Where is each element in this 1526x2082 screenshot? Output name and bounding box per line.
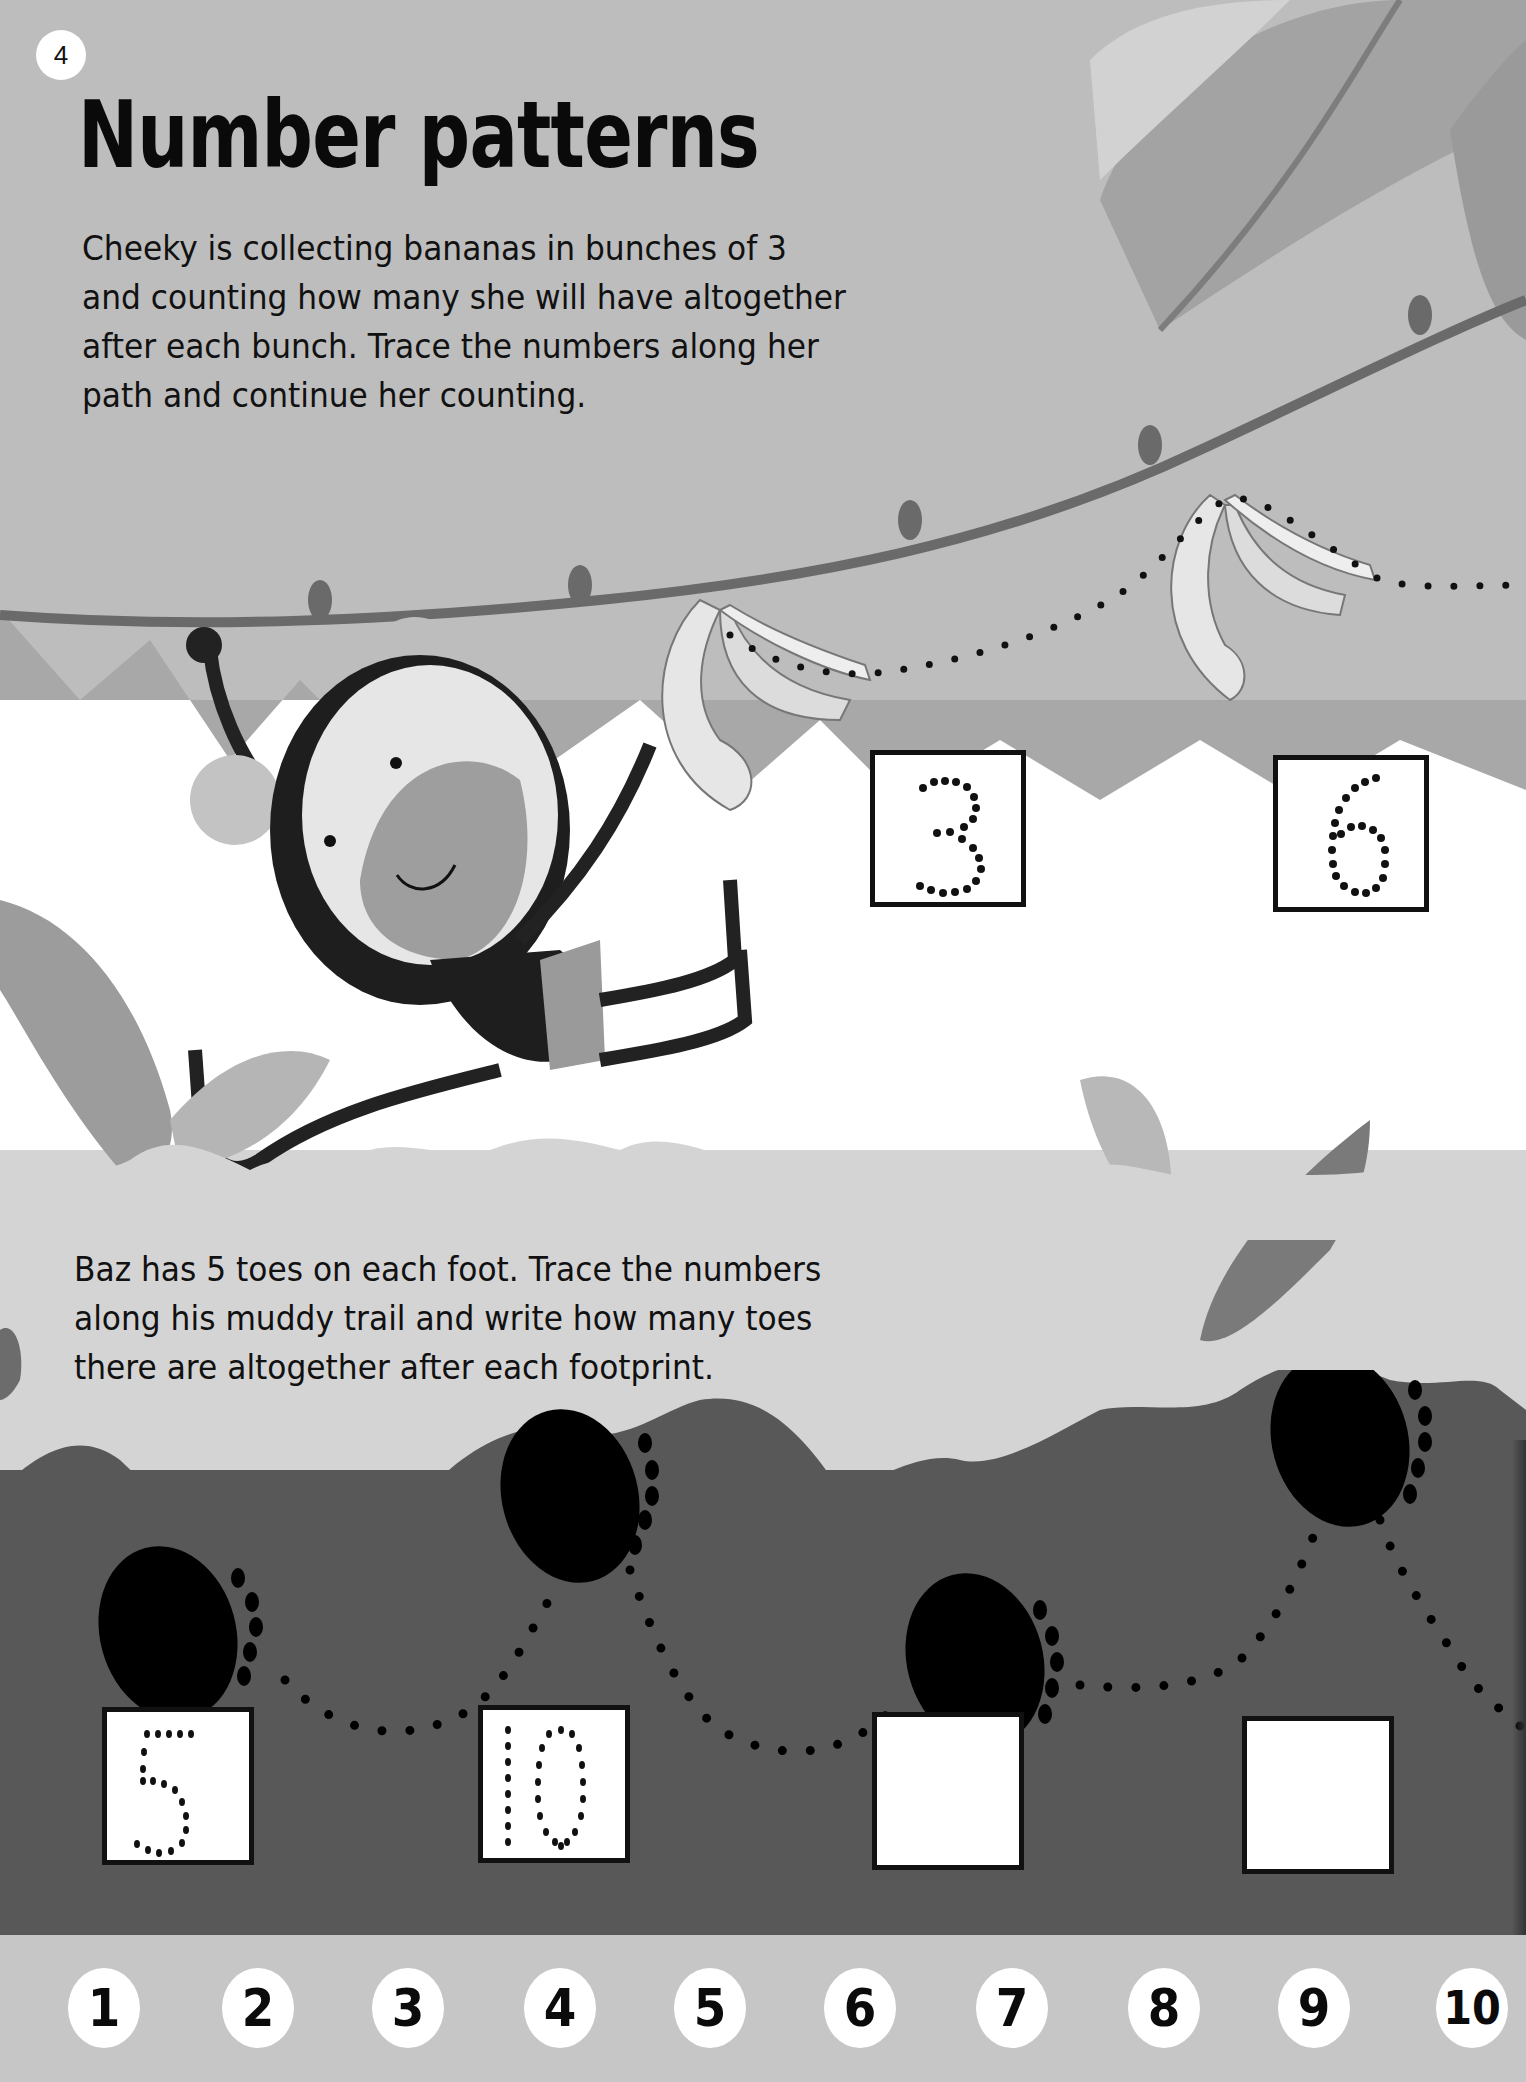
number-line-5: 5 bbox=[674, 1968, 746, 2048]
page-number: 4 bbox=[54, 40, 68, 71]
page-number-badge: 4 bbox=[36, 30, 86, 80]
dotted-digit-6 bbox=[1278, 760, 1424, 907]
dotted-digit-3: 3 bbox=[875, 755, 1021, 902]
answer-box-15[interactable] bbox=[872, 1712, 1024, 1870]
number-line-10: 10 bbox=[1436, 1968, 1508, 2048]
trace-box-3[interactable]: 3 bbox=[870, 750, 1026, 907]
number-line-3: 3 bbox=[372, 1968, 444, 2048]
number-line-9: 9 bbox=[1278, 1968, 1350, 2048]
trace-box-6[interactable] bbox=[1273, 755, 1429, 912]
dotted-digit-5 bbox=[107, 1712, 249, 1860]
dotted-digit-10 bbox=[483, 1710, 625, 1858]
trace-box-5[interactable] bbox=[102, 1707, 254, 1865]
number-line-6: 6 bbox=[824, 1968, 896, 2048]
instructions-bananas: Cheeky is collecting bananas in bunches … bbox=[82, 224, 1002, 420]
number-line-7: 7 bbox=[976, 1968, 1048, 2048]
page-edge-shadow bbox=[1512, 1440, 1526, 1940]
trace-box-10[interactable] bbox=[478, 1705, 630, 1863]
page-title: Number patterns bbox=[78, 82, 759, 189]
answer-box-20[interactable] bbox=[1242, 1716, 1394, 1874]
instructions-footprints: Baz has 5 toes on each foot. Trace the n… bbox=[74, 1245, 994, 1392]
number-line-4: 4 bbox=[524, 1968, 596, 2048]
number-line-8: 8 bbox=[1128, 1968, 1200, 2048]
number-line-1: 1 bbox=[68, 1968, 140, 2048]
number-line-2: 2 bbox=[222, 1968, 294, 2048]
